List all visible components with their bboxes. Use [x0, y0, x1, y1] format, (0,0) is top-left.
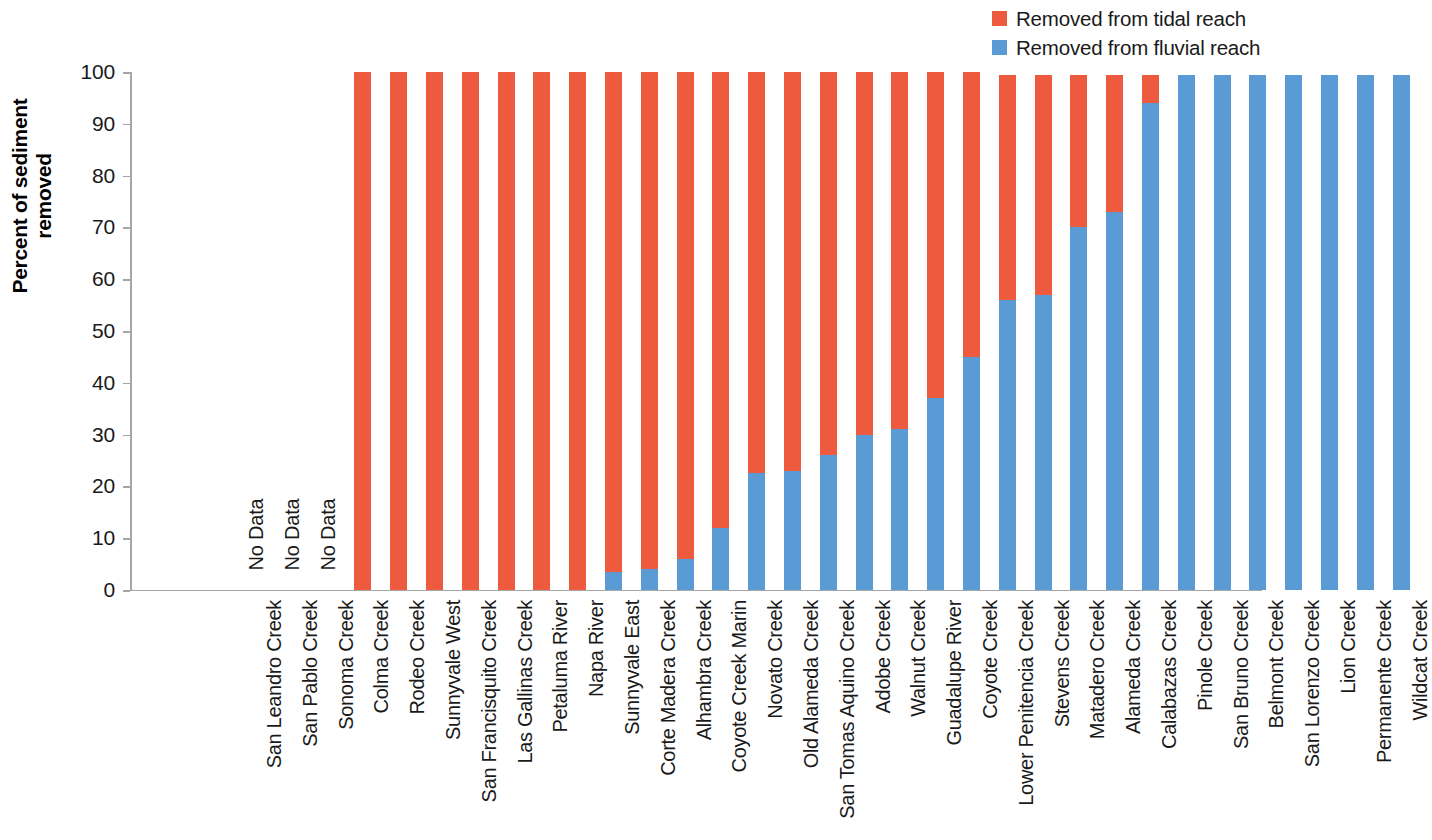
y-axis-tick-label: 0: [55, 578, 115, 602]
stacked-bar[interactable]: [1285, 75, 1302, 590]
bar-slot: [847, 72, 883, 590]
bar-segment-tidal[interactable]: [1106, 75, 1123, 212]
stacked-bar[interactable]: [1357, 75, 1374, 590]
x-axis-label-slot: Napa River: [560, 596, 596, 836]
bar-segment-tidal[interactable]: [354, 72, 371, 590]
bar-segment-fluvial[interactable]: [856, 435, 873, 590]
stacked-bar[interactable]: [748, 72, 765, 590]
bar-segment-tidal[interactable]: [498, 72, 515, 590]
stacked-bar[interactable]: [712, 72, 729, 590]
bar-slot: [381, 72, 417, 590]
bar-segment-tidal[interactable]: [927, 72, 944, 398]
stacked-bar[interactable]: [1249, 75, 1266, 590]
bar-segment-fluvial[interactable]: [1357, 75, 1374, 590]
bar-slot: [1026, 72, 1062, 590]
bar-segment-tidal[interactable]: [1142, 75, 1159, 103]
stacked-bar[interactable]: [927, 72, 944, 590]
stacked-bar[interactable]: [1035, 75, 1052, 590]
bar-segment-fluvial[interactable]: [1393, 75, 1410, 590]
bar-segment-tidal[interactable]: [605, 72, 622, 572]
bar-segment-fluvial[interactable]: [1321, 75, 1338, 590]
stacked-bar[interactable]: [856, 72, 873, 590]
bar-slot: [882, 72, 918, 590]
x-axis-label-layer: San Leandro CreekSan Pablo CreekSonoma C…: [130, 596, 1262, 840]
bar-segment-fluvial[interactable]: [784, 471, 801, 590]
stacked-bar[interactable]: [605, 72, 622, 590]
bar-segment-tidal[interactable]: [963, 72, 980, 357]
stacked-bar[interactable]: [1070, 75, 1087, 590]
stacked-bar[interactable]: [891, 72, 908, 590]
bar-segment-tidal[interactable]: [784, 72, 801, 471]
stacked-bar[interactable]: [498, 72, 515, 590]
bar-segment-tidal[interactable]: [891, 72, 908, 429]
stacked-bar[interactable]: [462, 72, 479, 590]
y-axis-tick-label: 70: [55, 215, 115, 239]
bar-segment-fluvial[interactable]: [1035, 295, 1052, 590]
stacked-bar[interactable]: [1178, 75, 1195, 590]
bar-segment-tidal[interactable]: [569, 72, 586, 590]
y-axis-tick: [123, 435, 130, 437]
bar-segment-fluvial[interactable]: [820, 455, 837, 590]
bar-slot: [811, 72, 847, 590]
bar-segment-fluvial[interactable]: [999, 300, 1016, 590]
stacked-bar[interactable]: [963, 72, 980, 590]
stacked-bar[interactable]: [390, 72, 407, 590]
bar-segment-fluvial[interactable]: [1178, 75, 1195, 590]
stacked-bar[interactable]: [354, 72, 371, 590]
bar-segment-tidal[interactable]: [1070, 75, 1087, 228]
bar-slot: [775, 72, 811, 590]
y-axis-tick-label: 90: [55, 112, 115, 136]
bar-segment-tidal[interactable]: [390, 72, 407, 590]
bar-segment-fluvial[interactable]: [927, 398, 944, 590]
bar-segment-fluvial[interactable]: [1106, 212, 1123, 590]
bar-segment-tidal[interactable]: [533, 72, 550, 590]
bar-segment-fluvial[interactable]: [605, 572, 622, 590]
bar-segment-fluvial[interactable]: [1142, 103, 1159, 590]
bar-segment-tidal[interactable]: [641, 72, 658, 569]
bar-slot: [417, 72, 453, 590]
x-axis-label-slot: San Pablo Creek: [274, 596, 310, 836]
stacked-bar[interactable]: [641, 72, 658, 590]
bar-segment-tidal[interactable]: [999, 75, 1016, 300]
bar-segment-tidal[interactable]: [677, 72, 694, 559]
bar-segment-fluvial[interactable]: [748, 473, 765, 590]
bar-segment-fluvial[interactable]: [963, 357, 980, 590]
legend-label-fluvial: Removed from fluvial reach: [1016, 36, 1260, 60]
bar-segment-fluvial[interactable]: [712, 528, 729, 590]
bar-segment-tidal[interactable]: [426, 72, 443, 590]
stacked-bar[interactable]: [1106, 75, 1123, 590]
stacked-bar[interactable]: [1214, 75, 1231, 590]
stacked-bar[interactable]: [1142, 75, 1159, 590]
no-data-annotation: No Data: [245, 499, 268, 571]
bar-segment-fluvial[interactable]: [1214, 75, 1231, 590]
bar-segment-tidal[interactable]: [820, 72, 837, 455]
y-axis-tick-label: 100: [55, 60, 115, 84]
bar-segment-tidal[interactable]: [856, 72, 873, 435]
x-axis-label-slot: San Bruno Creek: [1205, 596, 1241, 836]
bar-slot: [1169, 72, 1205, 590]
bar-slot: No Data: [238, 72, 274, 590]
bar-slot: [524, 72, 560, 590]
bar-segment-fluvial[interactable]: [1249, 75, 1266, 590]
stacked-bar[interactable]: [999, 75, 1016, 590]
stacked-bar[interactable]: [533, 72, 550, 590]
bar-segment-fluvial[interactable]: [1070, 227, 1087, 590]
stacked-bar[interactable]: [784, 72, 801, 590]
bar-segment-fluvial[interactable]: [677, 559, 694, 590]
stacked-bar[interactable]: [569, 72, 586, 590]
stacked-bar[interactable]: [1393, 75, 1410, 590]
bar-segment-tidal[interactable]: [748, 72, 765, 473]
bar-slot: [632, 72, 668, 590]
bar-segment-tidal[interactable]: [712, 72, 729, 528]
stacked-bar[interactable]: [1321, 75, 1338, 590]
bar-segment-fluvial[interactable]: [1285, 75, 1302, 590]
bar-segment-tidal[interactable]: [462, 72, 479, 590]
stacked-bar[interactable]: [820, 72, 837, 590]
bar-segment-tidal[interactable]: [1035, 75, 1052, 295]
bar-segment-fluvial[interactable]: [891, 429, 908, 590]
stacked-bar[interactable]: [677, 72, 694, 590]
bar-segment-fluvial[interactable]: [641, 569, 658, 590]
bar-slot: [1061, 72, 1097, 590]
stacked-bar[interactable]: [426, 72, 443, 590]
